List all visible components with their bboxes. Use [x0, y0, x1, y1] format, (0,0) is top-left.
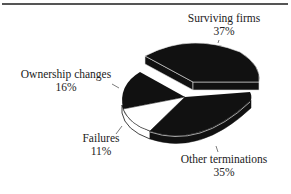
slice-surviving-firms — [145, 43, 259, 90]
label-name: Surviving firms — [178, 12, 270, 25]
label-value: 11% — [72, 145, 130, 158]
label-value: 16% — [8, 81, 124, 94]
label-name: Ownership changes — [8, 68, 124, 81]
label-value: 37% — [178, 25, 270, 38]
label-ownership-changes: Ownership changes 16% — [8, 68, 124, 94]
label-value: 35% — [166, 166, 282, 179]
label-surviving-firms: Surviving firms 37% — [178, 12, 270, 38]
label-name: Failures — [72, 132, 130, 145]
label-name: Other terminations — [166, 153, 282, 166]
label-other-terminations: Other terminations 35% — [166, 153, 282, 179]
label-failures: Failures 11% — [72, 132, 130, 158]
